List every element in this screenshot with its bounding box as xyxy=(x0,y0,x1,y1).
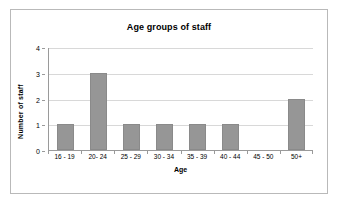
bar[interactable] xyxy=(156,124,173,150)
y-tick-mark xyxy=(42,74,45,75)
y-tick-label: 2 xyxy=(36,96,40,103)
bar-slot xyxy=(214,48,247,150)
bar-slot xyxy=(115,48,148,150)
y-tick-mark xyxy=(42,125,45,126)
bar-slot xyxy=(247,48,280,150)
y-tick-mark xyxy=(42,151,45,152)
bar-series xyxy=(49,48,313,150)
chart-title: Age groups of staff xyxy=(11,22,327,32)
y-axis-tick-labels: 01234 xyxy=(25,48,45,151)
y-tick-label: 1 xyxy=(36,122,40,129)
x-tick-label: 35 - 39 xyxy=(181,153,214,160)
x-tick-label: 25 - 29 xyxy=(114,153,147,160)
bar[interactable] xyxy=(123,124,140,150)
x-tick-label: 50+ xyxy=(280,153,313,160)
y-tick-mark xyxy=(42,48,45,49)
x-tick-label: 20- 24 xyxy=(81,153,114,160)
bar[interactable] xyxy=(90,73,107,150)
x-tick-label: 16 - 19 xyxy=(48,153,81,160)
bar-slot xyxy=(280,48,313,150)
bar[interactable] xyxy=(222,124,239,150)
y-tick-label: 4 xyxy=(36,45,40,52)
y-tick-label: 0 xyxy=(36,148,40,155)
bar[interactable] xyxy=(57,124,74,150)
x-tick-label: 30 - 34 xyxy=(147,153,180,160)
x-axis-tick-labels: 16 - 1920- 2425 - 2930 - 3435 - 3940 - 4… xyxy=(48,153,313,160)
x-tick-label: 40 - 44 xyxy=(214,153,247,160)
bar-slot xyxy=(49,48,82,150)
x-tick-label: 45 - 50 xyxy=(247,153,280,160)
chart-frame: Age groups of staff Number of staff 0123… xyxy=(10,9,328,194)
bar[interactable] xyxy=(189,124,206,150)
y-tick-label: 3 xyxy=(36,70,40,77)
plot-area xyxy=(48,48,313,151)
x-axis-title: Age xyxy=(48,166,313,173)
y-tick-mark xyxy=(42,100,45,101)
bar-slot xyxy=(148,48,181,150)
bar-slot xyxy=(82,48,115,150)
bar[interactable] xyxy=(288,99,305,151)
bar-slot xyxy=(181,48,214,150)
